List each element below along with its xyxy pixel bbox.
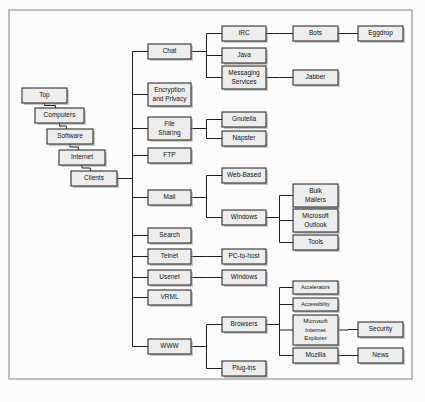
node-label: Sharing	[158, 129, 181, 137]
node-label: Accelerators	[301, 284, 330, 290]
node-label: Windows	[231, 213, 258, 220]
node-label: Mozilla	[305, 351, 326, 358]
node-news[interactable]: News	[358, 348, 405, 365]
node-ftp[interactable]: FTP	[148, 148, 193, 165]
node-label: FTP	[163, 151, 175, 158]
node-usenetwin[interactable]: Windows	[222, 270, 268, 287]
node-encryption[interactable]: Encryptionand Privacy	[148, 83, 193, 108]
node-accelerators[interactable]: Accelerators	[293, 281, 340, 296]
node-label: Security	[369, 325, 393, 333]
node-eggdrop[interactable]: Eggdrop	[358, 26, 405, 43]
node-label: VRML	[160, 293, 178, 300]
node-label: Java	[237, 51, 251, 58]
node-label: Explorer	[304, 335, 326, 341]
node-label: Accessibility	[301, 301, 330, 307]
node-label: File	[164, 120, 175, 127]
node-label: Napster	[233, 134, 257, 142]
node-top[interactable]: Top	[22, 88, 69, 105]
node-label: and Privacy	[153, 95, 188, 103]
node-label: Gnutella	[232, 115, 257, 122]
node-mailwindows[interactable]: Windows	[222, 210, 268, 227]
node-label: WWW	[160, 342, 179, 349]
node-webbased[interactable]: Web-Based	[222, 168, 268, 185]
node-usenet[interactable]: Usenet	[148, 270, 193, 287]
node-napster[interactable]: Napster	[222, 131, 268, 148]
node-label: Tools	[308, 238, 324, 245]
node-label: Eggdrop	[368, 29, 393, 37]
node-plugins[interactable]: Plug-ins	[222, 361, 268, 378]
node-label: Software	[57, 132, 83, 139]
node-label: Windows	[231, 273, 258, 280]
node-label: Messaging	[228, 69, 260, 77]
node-java[interactable]: Java	[222, 48, 268, 65]
node-msie[interactable]: MicrosoftInternetExplorer	[293, 315, 340, 347]
node-bulkmailers[interactable]: BulkMailers	[293, 184, 340, 209]
node-label: Outlook	[304, 221, 327, 228]
node-label: Top	[39, 91, 50, 99]
node-label: Plug-ins	[232, 364, 256, 372]
node-label: Jabber	[306, 73, 327, 80]
node-outlook[interactable]: MicrosoftOutlook	[293, 209, 340, 234]
node-internet[interactable]: Internet	[59, 150, 107, 167]
node-search[interactable]: Search	[148, 228, 193, 245]
node-label: Bots	[309, 29, 323, 36]
node-bots[interactable]: Bots	[293, 26, 340, 43]
node-security[interactable]: Security	[358, 322, 405, 339]
edge-msie-to-security	[338, 330, 358, 331]
node-label: Microsoft	[303, 318, 328, 324]
node-label: IRC	[238, 29, 250, 36]
node-label: Usenet	[159, 273, 180, 280]
node-tools[interactable]: Tools	[293, 235, 340, 252]
node-label: Internet	[71, 153, 93, 160]
edge-line	[338, 330, 358, 331]
node-label: Bulk	[309, 187, 322, 194]
node-accessibility[interactable]: Accessibility	[293, 298, 340, 313]
node-messaging[interactable]: MessagingServices	[222, 66, 268, 91]
node-label: News	[372, 351, 389, 358]
node-pctohost[interactable]: PC-to-host	[222, 249, 268, 266]
node-www[interactable]: WWW	[148, 339, 193, 356]
tree-diagram-canvas: TopComputersSoftwareInternetClientsChatE…	[0, 0, 425, 402]
node-chat[interactable]: Chat	[148, 44, 193, 61]
node-clients[interactable]: Clients	[71, 171, 119, 188]
node-label: Encryption	[154, 86, 185, 94]
node-label: Browsers	[230, 320, 258, 327]
tree-diagram-svg: TopComputersSoftwareInternetClientsChatE…	[0, 0, 425, 402]
node-vrml[interactable]: VRML	[148, 290, 193, 307]
node-telnet[interactable]: Telnet	[148, 249, 193, 266]
node-label: Services	[232, 78, 258, 85]
node-browsers[interactable]: Browsers	[222, 317, 268, 334]
node-label: Internet	[305, 327, 326, 333]
node-label: Chat	[163, 47, 177, 54]
node-filesharing[interactable]: FileSharing	[148, 117, 193, 142]
diagram-frame	[9, 10, 412, 379]
node-label: Clients	[84, 174, 105, 181]
node-gnutella[interactable]: Gnutella	[222, 112, 268, 129]
node-mozilla[interactable]: Mozilla	[293, 348, 340, 365]
node-label: Computers	[44, 111, 77, 119]
node-label: Telnet	[161, 252, 179, 259]
node-label: Mailers	[305, 196, 327, 203]
node-label: Microsoft	[302, 212, 329, 219]
node-jabber[interactable]: Jabber	[293, 70, 340, 87]
node-label: Mail	[164, 193, 176, 200]
node-irc[interactable]: IRC	[222, 26, 268, 43]
node-software[interactable]: Software	[47, 129, 95, 146]
node-computers[interactable]: Computers	[35, 108, 86, 125]
node-mail[interactable]: Mail	[148, 190, 193, 207]
node-label: Search	[159, 231, 180, 238]
node-label: PC-to-host	[228, 252, 259, 259]
node-label: Web-Based	[227, 171, 261, 178]
